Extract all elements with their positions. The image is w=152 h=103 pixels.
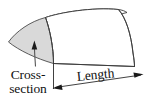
cross-section-face — [9, 18, 54, 64]
prism-side-face — [46, 9, 135, 67]
cross-section-prism-diagram: Cross- section Length — [0, 0, 152, 103]
cross-section-label: Cross- section — [2, 68, 54, 96]
cross-section-label-line2: section — [2, 82, 54, 96]
cross-section-label-line1: Cross- — [2, 68, 54, 82]
length-left-arrowhead — [53, 85, 63, 90]
length-right-arrowhead — [133, 72, 143, 77]
